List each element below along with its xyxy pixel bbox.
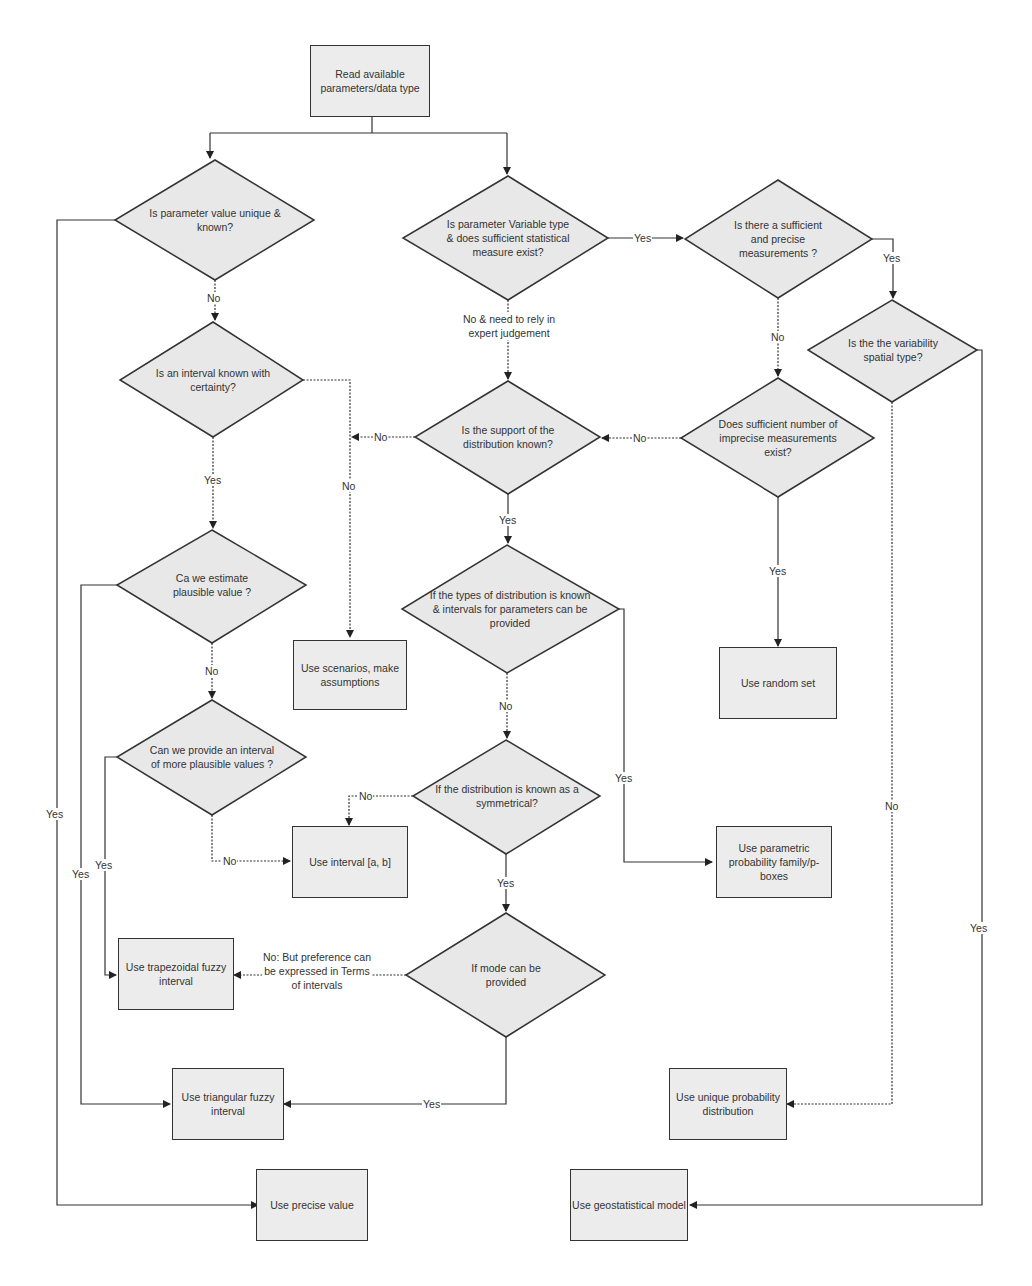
decision-mode-provided: If mode can be provided	[460, 957, 552, 993]
edge-label-interval-certain-no: No	[341, 480, 356, 492]
edge-label-more-plausible-yes: Yes	[94, 859, 113, 871]
decision-more-plausible: Can we provide an interval of more plaus…	[145, 733, 279, 781]
decision-unique-known: Is parameter value unique & known?	[140, 200, 290, 240]
decision-sufficient-precise-text: Is there a sufficient and precise measur…	[726, 218, 830, 260]
edge-label-types-no: No	[498, 700, 513, 712]
decision-sufficient-precise: Is there a sufficient and precise measur…	[722, 215, 834, 263]
outcome-parametric-text: Use parametric probability family/p-boxe…	[717, 841, 831, 883]
decision-variable-type-text: Is parameter Variable type & does suffic…	[444, 217, 572, 259]
outcome-trapezoidal-box: Use trapezoidal fuzzy interval	[118, 938, 234, 1010]
edge-label-imprecise-no: No	[632, 432, 647, 444]
edge-label-precise-no: No	[770, 331, 785, 343]
decision-more-plausible-text: Can we provide an interval of more plaus…	[149, 743, 275, 771]
decision-types-known: If the types of distribution is known & …	[425, 585, 595, 633]
decision-spatial-text: Is the the variability spatial type?	[840, 336, 946, 364]
outcome-parametric-box: Use parametric probability family/p-boxe…	[716, 826, 832, 898]
decision-interval-certain-text: Is an interval known with certainty?	[152, 366, 274, 394]
outcome-interval-ab-text: Use interval [a, b]	[309, 855, 391, 869]
edge-label-precise-yes: Yes	[882, 252, 901, 264]
outcome-random-set-box: Use random set	[719, 647, 837, 719]
outcome-unique-probability-box: Use unique probability distribution	[669, 1068, 787, 1140]
outcome-scenarios-box: Use scenarios, make assumptions	[293, 640, 407, 710]
edge-label-symmetrical-yes: Yes	[496, 877, 515, 889]
edge-label-support-yes: Yes	[498, 514, 517, 526]
outcome-trapezoidal-text: Use trapezoidal fuzzy interval	[119, 960, 233, 988]
edge-label-unique-no: No	[206, 292, 221, 304]
decision-estimate-plausible-text: Ca we estimate plausible value ?	[159, 571, 265, 599]
outcome-precise-value-box: Use precise value	[256, 1169, 368, 1241]
edge-label-estimate-no: No	[204, 665, 219, 677]
outcome-scenarios-text: Use scenarios, make assumptions	[294, 661, 406, 689]
decision-imprecise-exist-text: Does sufficient number of imprecise meas…	[718, 417, 838, 459]
edge-label-imprecise-yes: Yes	[768, 565, 787, 577]
edge-label-estimate-yes: Yes	[71, 868, 90, 880]
edge-label-support-no: No	[373, 431, 388, 443]
edge-label-symmetrical-no: No	[358, 790, 373, 802]
start-read-parameters-text: Read available parameters/data type	[311, 67, 429, 95]
outcome-geostatistical-box: Use geostatistical model	[570, 1169, 688, 1241]
decision-types-known-text: If the types of distribution is known & …	[429, 588, 591, 630]
edge-label-expert-judgement: No & need to rely in expert judgement	[450, 312, 568, 340]
edge-label-unique-yes: Yes	[45, 808, 64, 820]
decision-symmetrical-text: If the distribution is known as a symmet…	[434, 782, 580, 810]
edge-label-interval-certain-yes: Yes	[203, 474, 222, 486]
flowchart-canvas	[0, 0, 1032, 1286]
outcome-interval-ab-box: Use interval [a, b]	[292, 826, 408, 898]
edge-label-variable-yes: Yes	[633, 232, 652, 244]
edge-label-mode-yes: Yes	[422, 1098, 441, 1110]
outcome-triangular-text: Use triangular fuzzy interval	[173, 1090, 283, 1118]
decision-interval-certain: Is an interval known with certainty?	[148, 362, 278, 398]
decision-support-known-text: Is the support of the distribution known…	[454, 423, 562, 451]
decision-variable-type: Is parameter Variable type & does suffic…	[440, 208, 576, 268]
outcome-unique-probability-text: Use unique probability distribution	[670, 1090, 786, 1118]
edge-label-spatial-yes: Yes	[969, 922, 988, 934]
decision-support-known: Is the support of the distribution known…	[450, 413, 566, 461]
outcome-random-set-text: Use random set	[741, 676, 815, 690]
decision-imprecise-exist: Does sufficient number of imprecise meas…	[714, 414, 842, 462]
outcome-geostatistical-text: Use geostatistical model	[572, 1198, 686, 1212]
edge-label-spatial-no: No	[884, 800, 899, 812]
edge-label-preference-intervals: No: But preference can be expressed in T…	[262, 950, 372, 992]
outcome-precise-value-text: Use precise value	[270, 1198, 353, 1212]
start-read-parameters-box: Read available parameters/data type	[310, 45, 430, 117]
edge-label-more-plausible-no: No	[222, 855, 237, 867]
outcome-triangular-box: Use triangular fuzzy interval	[172, 1068, 284, 1140]
decision-symmetrical: If the distribution is known as a symmet…	[430, 778, 584, 814]
decision-unique-known-text: Is parameter value unique & known?	[144, 206, 286, 234]
decision-mode-provided-text: If mode can be provided	[464, 961, 548, 989]
edge-label-types-yes: Yes	[614, 772, 633, 784]
decision-spatial: Is the the variability spatial type?	[836, 332, 950, 368]
decision-estimate-plausible: Ca we estimate plausible value ?	[155, 568, 269, 602]
